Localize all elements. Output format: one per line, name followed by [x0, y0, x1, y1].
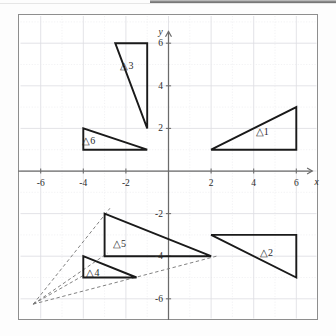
triangle-1-label: △1	[256, 125, 269, 136]
triangle-4-label: △4	[86, 267, 99, 278]
triangle-5-label: △5	[113, 238, 126, 249]
x-tick-label-neg2: -2	[122, 178, 130, 188]
axes	[18, 31, 312, 320]
figure-canvas: -6-4-2246642-2-4-6xy△1△2△3△4△5△6	[0, 0, 336, 336]
y-tick-label-4: 4	[158, 81, 163, 91]
y-tick-label-2: 2	[158, 123, 163, 133]
coordinate-plot	[0, 0, 336, 336]
x-tick-label-2: 2	[209, 178, 214, 188]
x-tick-label-4: 4	[251, 178, 256, 188]
y-axis-label: y	[158, 27, 162, 37]
x-axis-label: x	[314, 177, 318, 187]
y-tick-label-6: 6	[158, 38, 163, 48]
y-tick-label-neg4: -4	[155, 251, 163, 261]
x-tick-label-neg4: -4	[79, 178, 87, 188]
dash-to-tri5-right	[33, 256, 216, 304]
triangle-2-label: △2	[260, 246, 273, 257]
x-tick-label-neg6: -6	[37, 178, 45, 188]
x-tick-label-6: 6	[294, 178, 299, 188]
y-tick-label-neg6: -6	[155, 294, 163, 304]
triangle-6-label: △6	[82, 135, 95, 146]
triangle-3-label: △3	[120, 59, 133, 70]
y-tick-label-neg2: -2	[155, 209, 163, 219]
